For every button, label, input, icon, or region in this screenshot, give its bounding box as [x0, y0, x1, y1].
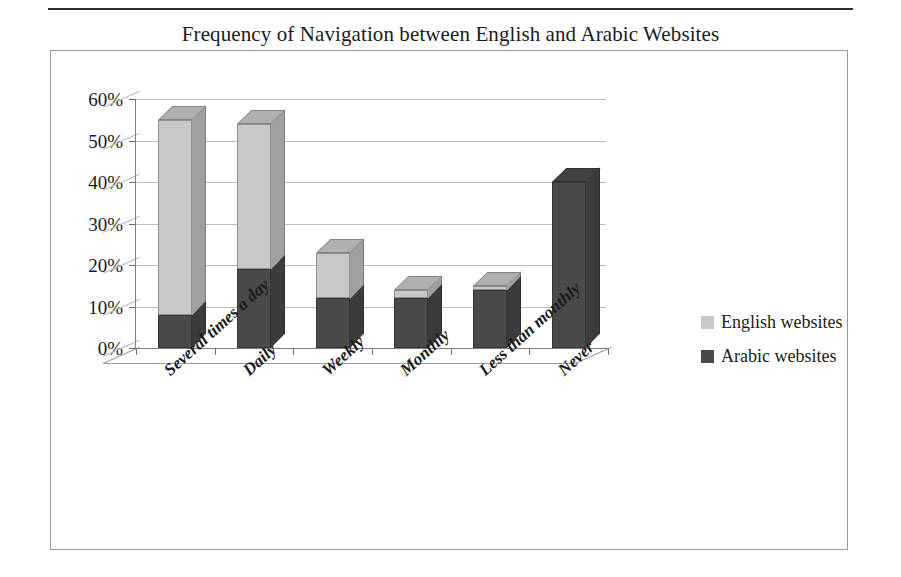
x-axis-category-label: Weekly — [319, 333, 367, 379]
y-axis-tick — [129, 224, 136, 225]
x-axis-tick — [608, 348, 609, 355]
x-axis-category-label: Daily — [240, 341, 279, 379]
x-axis-tick — [529, 348, 530, 355]
y-axis-tick — [129, 307, 136, 308]
plot-area: 60%50%40%30%20%10%0% Several times a day… — [51, 51, 849, 551]
x-axis-category-labels: Several times a dayDailyWeeklyMonthlyLes… — [51, 51, 849, 551]
y-axis-tick — [129, 265, 136, 266]
legend-item[interactable]: English websites — [701, 313, 901, 331]
x-axis-category-label: Never — [555, 338, 597, 378]
y-axis-tick — [129, 141, 136, 142]
legend-item[interactable]: Arabic websites — [701, 347, 901, 365]
y-axis-tick — [129, 348, 136, 349]
legend-swatch — [701, 350, 714, 363]
y-axis-tick — [129, 182, 136, 183]
legend-label: English websites — [721, 313, 843, 331]
legend-label: Arabic websites — [721, 347, 836, 365]
legend-swatch — [701, 316, 714, 329]
x-axis-tick — [293, 348, 294, 355]
page-root: Frequency of Navigation between English … — [0, 0, 901, 577]
page-divider-rule — [48, 8, 853, 10]
chart-legend: English websitesArabic websites — [701, 313, 901, 381]
y-axis-tick — [129, 99, 136, 100]
chart-title: Frequency of Navigation between English … — [0, 22, 901, 47]
x-axis-tick — [451, 348, 452, 355]
x-axis-tick — [136, 348, 137, 355]
x-axis-tick — [372, 348, 373, 355]
x-axis-category-label: Monthly — [397, 326, 453, 378]
x-axis-tick — [215, 348, 216, 355]
chart-frame: 60%50%40%30%20%10%0% Several times a day… — [50, 50, 848, 550]
